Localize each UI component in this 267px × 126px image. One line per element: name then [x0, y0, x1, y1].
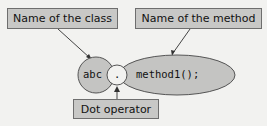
dot-arrowhead-icon [114, 86, 120, 92]
method-name-label-box: Name of the method [135, 8, 262, 29]
class-name-label-box: Name of the class [7, 8, 118, 29]
dot-code: . [114, 68, 120, 80]
method-arrow [173, 29, 190, 53]
method-call-code: method1(); [136, 68, 199, 80]
class-arrow [58, 29, 90, 58]
class-name-code: abc [83, 68, 102, 80]
dot-operator-label-box: Dot operator [73, 99, 159, 119]
